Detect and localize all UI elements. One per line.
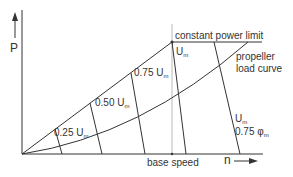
u075-label: 0.75 Um	[134, 68, 168, 81]
p-arrow-head-icon	[12, 12, 18, 21]
base-speed-dot	[171, 153, 173, 155]
diagram-canvas	[0, 0, 293, 177]
u050-label: 0.50 Um	[95, 98, 129, 111]
base-speed-label: base speed	[147, 158, 199, 168]
x-axis-label: n	[224, 154, 231, 166]
um-field-phi-label: 0.75 φm	[235, 127, 269, 140]
um-label: Um	[176, 47, 188, 60]
propeller-label-line1: propeller	[236, 52, 275, 62]
propeller-label-line2: load curve	[236, 64, 282, 74]
u025-label: 0.25 Um	[54, 128, 88, 141]
y-axis-label: P	[10, 42, 18, 54]
n-arrow-head-icon	[249, 158, 258, 164]
constant-power-label: constant power limit	[175, 31, 263, 41]
u075-line	[131, 73, 145, 154]
